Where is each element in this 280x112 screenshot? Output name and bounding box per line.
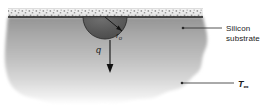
figure-canvas [0,0,280,112]
silicon-substrate-label-line2: substrate [226,34,260,44]
ambient-temperature-subscript: ∞ [244,83,249,90]
ambient-temperature-leader [181,82,234,85]
figure-hemispherical-heat-source: Silicon substrate T∞ ro q [0,0,280,112]
ambient-temperature-label: T∞ [238,79,248,92]
radius-label: ro [116,31,122,43]
heat-flux-label: q [96,45,101,55]
silicon-substrate-label: Silicon substrate [226,24,260,44]
stippled-surface-band [8,8,203,17]
silicon-substrate-label-line1: Silicon [226,24,260,34]
radius-subscript: o [119,35,122,41]
